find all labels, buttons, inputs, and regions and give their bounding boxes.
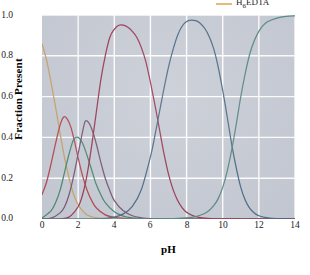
y-tick-label: 0.8 [0, 51, 13, 61]
curve-H6EDTA [42, 44, 295, 219]
plot-canvas [42, 15, 295, 219]
x-tick-label: 14 [285, 221, 305, 231]
x-axis-title: pH [42, 243, 295, 255]
plot-area [42, 15, 295, 219]
x-tick-label: 12 [249, 221, 269, 231]
chart-legend: H6EDTA [216, 0, 269, 11]
curve-H2EDTA2- [42, 25, 295, 219]
y-tick-label: 0.6 [0, 92, 13, 102]
x-tick-label: 10 [213, 221, 233, 231]
y-axis-title: Fraction Present [12, 34, 24, 164]
y-tick-label: 0.4 [0, 133, 13, 143]
x-tick-label: 8 [177, 221, 197, 231]
x-tick-label: 2 [68, 221, 88, 231]
y-tick-label: 0.0 [0, 214, 13, 224]
curve-HEDTA3- [42, 20, 295, 219]
series-curves [42, 16, 295, 219]
speciation-chart-figure: H6EDTA Fraction Present 1.0 0.8 0.6 0.4 … [0, 0, 310, 275]
legend-entry-label: H6EDTA [236, 0, 269, 10]
curve-EDTA4- [42, 16, 295, 219]
y-tick-label: 0.2 [0, 174, 13, 184]
gridlines [42, 15, 295, 219]
x-tick-label: 0 [32, 221, 52, 231]
x-tick-label: 4 [104, 221, 124, 231]
y-tick-label: 1.0 [0, 11, 13, 21]
legend-line-swatch-icon [216, 3, 232, 5]
x-tick-label: 6 [140, 221, 160, 231]
legend-label-suffix: EDTA [246, 0, 269, 7]
